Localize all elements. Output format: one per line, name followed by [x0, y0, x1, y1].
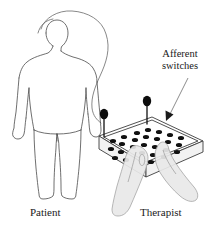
switch-dot[interactable]	[156, 130, 162, 134]
switch-dot[interactable]	[145, 128, 151, 132]
afferent-switches-label: Afferent switches	[150, 48, 210, 72]
therapist-label: Therapist	[140, 206, 182, 219]
switch-dot[interactable]	[108, 147, 114, 151]
figure-container: Afferent switches Patient Therapist	[0, 0, 214, 235]
switch-dot[interactable]	[178, 136, 184, 140]
switch-dot[interactable]	[112, 156, 118, 160]
diagram-canvas	[0, 0, 214, 235]
switch-dot[interactable]	[141, 143, 147, 147]
switch-dot[interactable]	[143, 135, 149, 139]
switch-dot[interactable]	[121, 135, 127, 139]
switch-dot[interactable]	[110, 139, 116, 143]
callout-arrow	[166, 78, 189, 121]
switch-dot[interactable]	[134, 131, 140, 135]
switch-dot[interactable]	[174, 150, 180, 154]
switch-dot[interactable]	[119, 142, 125, 146]
arrowhead-icon	[166, 111, 174, 122]
lever-knob[interactable]	[100, 109, 108, 119]
switch-dot[interactable]	[132, 138, 138, 142]
switch-dot[interactable]	[154, 137, 160, 141]
patient-figure	[13, 20, 101, 199]
hand-finger	[139, 155, 145, 166]
switch-panel[interactable]	[99, 117, 203, 177]
patient-label: Patient	[30, 206, 61, 219]
lever-knob[interactable]	[143, 96, 151, 106]
switch-dot[interactable]	[176, 143, 182, 147]
switch-dot[interactable]	[148, 160, 154, 164]
electrode-cable	[38, 11, 108, 123]
switch-dot[interactable]	[167, 133, 173, 137]
switch-dot[interactable]	[118, 150, 124, 154]
